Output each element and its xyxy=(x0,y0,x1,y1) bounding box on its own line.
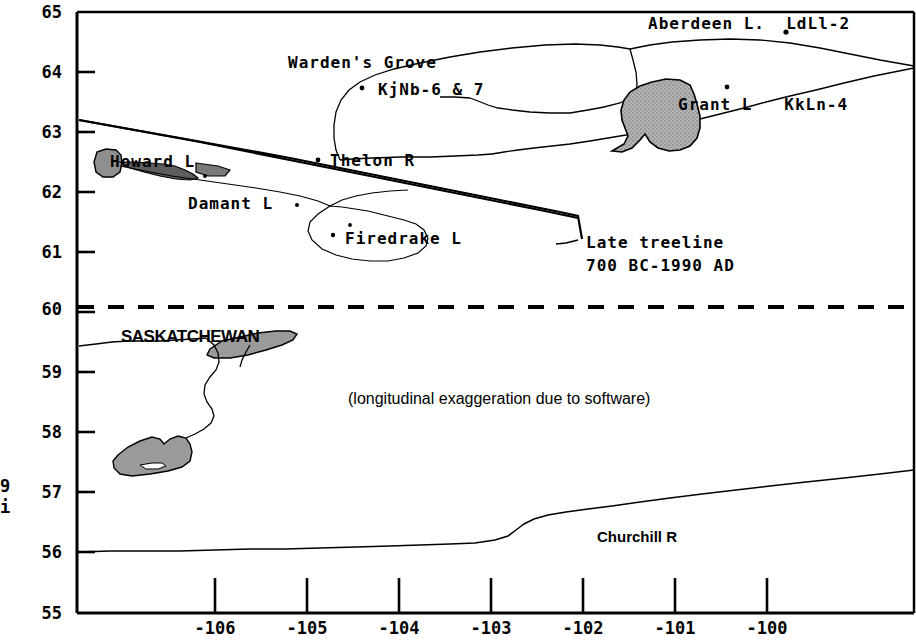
y-tick-label-64: 64 xyxy=(22,62,62,82)
y-tick-label-59: 59 xyxy=(22,362,62,382)
x-tick-label-101: -101 xyxy=(630,618,720,638)
x-axis-ticks xyxy=(215,578,767,613)
label-wardens-grove: Warden's Grove xyxy=(288,53,437,73)
y-tick-label-63: 63 xyxy=(22,122,62,142)
label-late-treeline-line1: Late treeline xyxy=(586,233,724,253)
late-treeline-line xyxy=(79,120,582,244)
label-churchill-river: Churchill R xyxy=(597,528,677,545)
label-firedrake-lake: Firedrake L xyxy=(345,229,462,249)
y-tick-label-61: 61 xyxy=(22,242,62,262)
churchill-river xyxy=(79,470,914,552)
y-tick-label-55: 55 xyxy=(22,603,62,623)
clipped-edge-text-line2: i xyxy=(0,498,10,517)
y-tick-label-58: 58 xyxy=(22,422,62,442)
clipped-edge-text-line1: 9 xyxy=(0,477,10,496)
y-tick-label-57: 57 xyxy=(22,482,62,502)
map-figure: 65 64 63 62 61 60 59 58 57 56 55 -106 -1… xyxy=(0,0,916,640)
y-tick-label-62: 62 xyxy=(22,182,62,202)
label-thelon-river: Thelon R xyxy=(330,151,415,171)
label-howard-lake: Howard L xyxy=(110,152,195,172)
label-aberdeen-lake: Aberdeen L. LdLl-2 xyxy=(648,14,850,34)
label-saskatchewan: SASKATCHEWAN xyxy=(121,327,259,347)
label-grant-lake: Grant L KkLn-4 xyxy=(678,95,848,115)
x-tick-label-106: -106 xyxy=(170,618,260,638)
label-kjnb-sites: KjNb-6 & 7 xyxy=(378,80,484,100)
label-damant-lake: Damant L xyxy=(188,194,273,214)
x-tick-label-105: -105 xyxy=(262,618,352,638)
label-late-treeline-line2: 700 BC-1990 AD xyxy=(586,256,735,276)
x-tick-label-102: -102 xyxy=(538,618,628,638)
label-exaggeration-note: (longitudinal exaggeration due to softwa… xyxy=(348,390,650,408)
saskatchewan-lake-lower xyxy=(113,436,192,476)
y-tick-label-56: 56 xyxy=(22,542,62,562)
x-tick-label-104: -104 xyxy=(354,618,444,638)
x-tick-label-100: -100 xyxy=(722,618,812,638)
grant-lake-site-dot xyxy=(725,85,730,90)
y-axis-ticks xyxy=(77,72,95,552)
y-tick-label-60: 60 xyxy=(22,299,62,319)
grant-lake-polygon xyxy=(612,79,700,152)
y-tick-label-65: 65 xyxy=(22,2,62,22)
x-tick-label-103: -103 xyxy=(446,618,536,638)
